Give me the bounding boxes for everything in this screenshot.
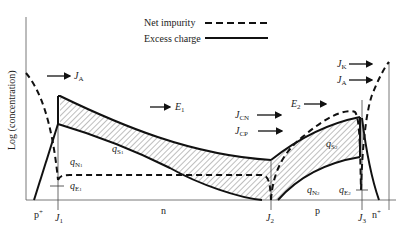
jcp-label: JCP	[235, 126, 248, 139]
region-n-label: n	[161, 206, 166, 216]
junction-j2-label: J2	[266, 213, 274, 226]
qe2-label: qE2	[339, 185, 351, 199]
e2-label: E2	[291, 99, 301, 112]
region-p-plus-label: p+	[34, 207, 43, 220]
excess-charge-nplus-edge	[362, 118, 379, 200]
qn2-label: qN2	[307, 185, 320, 199]
junction-j3-label: J3	[358, 213, 366, 226]
legend-net-impurity-label: Net impurity	[144, 18, 195, 28]
excess-charge-pplus-edge	[34, 124, 58, 200]
jcn-label: JCN	[235, 110, 249, 123]
qe1-label: qE1	[70, 181, 82, 195]
e1-label: E1	[175, 102, 185, 115]
net-impurity-pplus	[26, 73, 58, 180]
junction-j1-label: J1	[55, 213, 63, 226]
y-axis-label: Log (concentration)	[6, 70, 17, 150]
ja-right-label: JA	[337, 75, 347, 88]
region-n-plus-label: n+	[372, 207, 381, 220]
qs1-label: qS1	[112, 144, 123, 158]
region-p-label: p	[315, 206, 320, 216]
legend-excess-charge-label: Excess charge	[144, 34, 201, 44]
qs2-label: qS2	[326, 139, 337, 153]
jk-label: JK	[337, 59, 347, 72]
ja-left-label: JA	[74, 71, 84, 84]
qn1-label: qN1	[70, 157, 83, 171]
net-impurity-nplus	[361, 62, 389, 190]
